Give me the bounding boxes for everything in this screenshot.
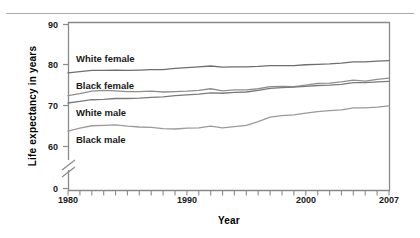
y-tick-label-70: 70 (48, 101, 58, 111)
y-axis-ticks (63, 25, 68, 189)
x-axis-title: Year (218, 215, 240, 226)
data-series-group (68, 61, 389, 131)
series-label-white-male: White male (76, 107, 126, 118)
y-tick-label-80: 80 (48, 60, 58, 70)
x-tick-label-1990: 1990 (177, 195, 197, 205)
y-tick-label-0: 0 (53, 184, 58, 194)
chart-canvas: 90 80 70 60 0 1980 1990 2000 2007 White … (0, 0, 420, 238)
y-axis-title: Life expectancy in years (27, 46, 38, 167)
series-label-black-male: Black male (76, 134, 126, 145)
life-expectancy-chart-figure: 90 80 70 60 0 1980 1990 2000 2007 White … (0, 0, 420, 238)
y-tick-label-90: 90 (48, 20, 58, 30)
x-tick-label-1980: 1980 (58, 195, 78, 205)
series-label-black-female: Black female (76, 80, 134, 91)
x-tick-label-2000: 2000 (296, 195, 316, 205)
y-tick-label-60: 60 (48, 142, 58, 152)
series-label-white-female: White female (76, 53, 135, 64)
x-axis-ticks (68, 191, 389, 196)
x-tick-label-2007: 2007 (379, 195, 399, 205)
